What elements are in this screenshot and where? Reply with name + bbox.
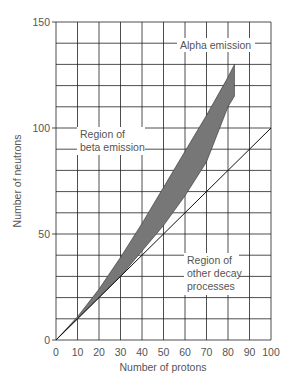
- x-tick-70: 70: [201, 346, 213, 358]
- x-tick-90: 90: [244, 346, 256, 358]
- x-tick-20: 20: [93, 346, 105, 358]
- x-tick-80: 80: [222, 346, 234, 358]
- y-tick-0: 0: [44, 334, 50, 346]
- x-tick-100: 100: [262, 346, 280, 358]
- x-axis-label: Number of protons: [120, 361, 207, 373]
- x-tick-0: 0: [53, 346, 59, 358]
- stability-band: [56, 64, 234, 340]
- x-ticks: 0102030405060708090100: [53, 346, 280, 358]
- beta-region-label-line2: beta emission: [80, 141, 145, 153]
- y-tick-50: 50: [38, 228, 50, 240]
- x-tick-30: 30: [115, 346, 127, 358]
- beta-region-label-line1: Region of: [80, 128, 125, 140]
- y-tick-100: 100: [32, 122, 50, 134]
- y-tick-150: 150: [32, 16, 50, 28]
- x-tick-10: 10: [72, 346, 84, 358]
- alpha-emission-label: Alpha emission: [180, 39, 251, 51]
- chart: Alpha emission Region of beta emission R…: [0, 0, 293, 383]
- y-axis-label: Number of neutrons: [11, 135, 23, 228]
- x-tick-60: 60: [179, 346, 191, 358]
- other-region-label-line2: other decay: [187, 267, 243, 279]
- other-region-label-line3: processes: [187, 280, 235, 292]
- x-tick-40: 40: [136, 346, 148, 358]
- other-region-label-line1: Region of: [187, 254, 232, 266]
- x-tick-50: 50: [158, 346, 170, 358]
